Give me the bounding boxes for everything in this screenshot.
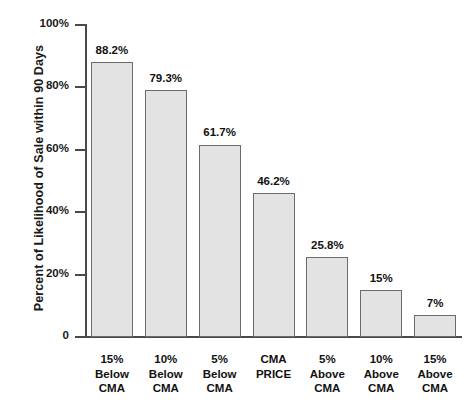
category-label-line: CMA xyxy=(180,381,260,396)
bar-value-label: 15% xyxy=(341,272,421,284)
y-axis-tick-label: 40% xyxy=(0,204,69,216)
y-axis-tick-labels: 020%40%60%80%100% xyxy=(0,0,75,408)
bar xyxy=(306,257,348,337)
x-axis-category-label: 15%AboveCMA xyxy=(395,352,469,396)
y-axis-tick-label: 20% xyxy=(0,267,69,279)
bar-value-label: 7% xyxy=(395,297,469,309)
y-axis-tick-label: 100% xyxy=(0,17,69,29)
bar-value-label: 46.2% xyxy=(234,175,314,187)
bar-chart: Percent of Likelihood of Sale within 90 … xyxy=(0,0,469,408)
bar-value-label: 25.8% xyxy=(287,239,367,251)
bar-value-label: 79.3% xyxy=(126,72,206,84)
bar xyxy=(253,193,295,337)
y-axis-tick-label: 0 xyxy=(0,329,69,341)
bar xyxy=(414,315,456,337)
bar xyxy=(91,62,133,337)
y-axis-tick-label: 80% xyxy=(0,79,69,91)
bar xyxy=(199,145,241,338)
bar-value-label: 61.7% xyxy=(180,126,260,138)
bar-value-label: 88.2% xyxy=(72,44,152,56)
category-label-line: CMA xyxy=(395,381,469,396)
category-label-line: Above xyxy=(395,367,469,382)
category-label-line: 15% xyxy=(395,352,469,367)
y-axis-tick-label: 60% xyxy=(0,142,69,154)
